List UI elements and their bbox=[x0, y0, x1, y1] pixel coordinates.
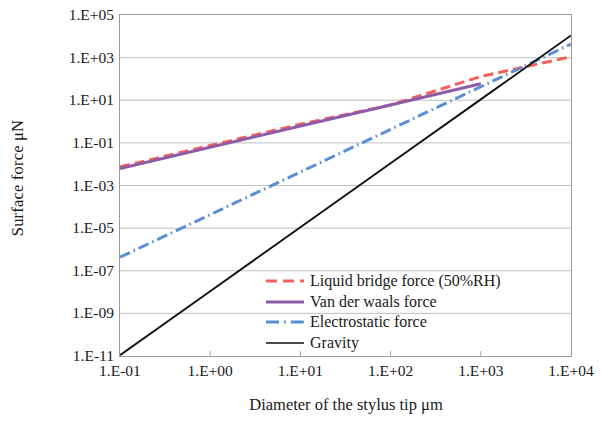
legend-label: Electrostatic force bbox=[310, 312, 427, 333]
y-tick-label: 1.E-07 bbox=[32, 263, 114, 279]
y-axis-title: Surface force μN bbox=[8, 68, 28, 288]
y-tick-label: 1.E-01 bbox=[32, 135, 114, 151]
legend-swatch-1 bbox=[265, 274, 305, 288]
y-tick-label: 1.E-09 bbox=[32, 305, 114, 321]
legend-swatch-2 bbox=[265, 295, 305, 309]
x-tick-label: 1.E-01 bbox=[76, 362, 164, 380]
legend-swatch-4 bbox=[265, 336, 305, 350]
y-tick-label: 1.E+05 bbox=[32, 7, 114, 23]
x-tick-label: 1.E+02 bbox=[347, 362, 435, 380]
y-tick-label: 1.E-05 bbox=[32, 220, 114, 236]
x-tick-label: 1.E+00 bbox=[166, 362, 254, 380]
x-axis-title: Diameter of the stylus tip μm bbox=[119, 395, 573, 415]
legend-label: Liquid bridge force (50%RH) bbox=[310, 271, 501, 292]
legend-label: Van der waals force bbox=[310, 292, 437, 313]
x-tick-label: 1.E+01 bbox=[256, 362, 344, 380]
legend-item: Van der waals force bbox=[265, 292, 565, 313]
legend-item: Electrostatic force bbox=[265, 312, 565, 333]
y-tick-label: 1.E+01 bbox=[32, 92, 114, 108]
legend-label: Gravity bbox=[310, 333, 359, 354]
legend-item: Liquid bridge force (50%RH) bbox=[265, 271, 565, 292]
y-tick-label: 1.E-03 bbox=[32, 178, 114, 194]
x-tick-label: 1.E+04 bbox=[527, 362, 601, 380]
series-line-2 bbox=[120, 84, 481, 169]
legend-item: Gravity bbox=[265, 333, 565, 354]
x-tick-label: 1.E+03 bbox=[437, 362, 525, 380]
legend-swatch-3 bbox=[265, 315, 305, 329]
y-tick-label: 1.E+03 bbox=[32, 50, 114, 66]
chart-legend: Liquid bridge force (50%RH)Van der waals… bbox=[265, 271, 565, 353]
chart-figure: Surface force μN 1.E+051.E+031.E+011.E-0… bbox=[0, 0, 601, 430]
